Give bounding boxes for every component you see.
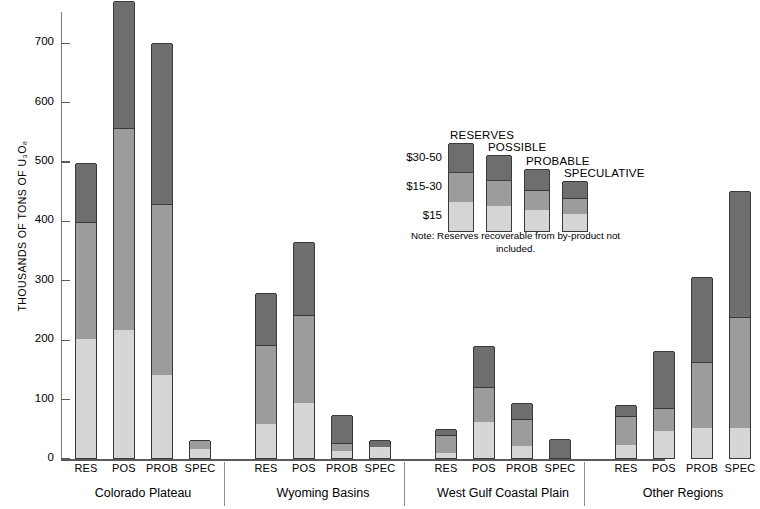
bar-segment-15 <box>616 445 636 458</box>
bar-segment-30to50 <box>474 346 494 386</box>
bar-segment-15 <box>190 449 210 458</box>
bar-segment-15to30 <box>332 443 352 451</box>
bar-segment-15 <box>114 330 134 458</box>
bar-segment-15 <box>152 375 172 458</box>
bar-segment-15to30 <box>474 387 494 423</box>
legend-segment-15to30 <box>525 190 549 211</box>
bar-segment-15to30 <box>512 419 532 446</box>
legend-segment-15 <box>563 214 587 231</box>
legend-segment-30to50 <box>449 143 473 172</box>
legend-bar-speculative <box>562 182 588 232</box>
legend-title-probable: PROBABLE <box>526 155 590 167</box>
bar-wyoming-basins-prob[interactable] <box>331 416 353 459</box>
bar-segment-15to30 <box>692 362 712 429</box>
bar-segment-15to30 <box>616 416 636 445</box>
x-label-spec: SPEC <box>355 462 405 474</box>
bar-segment-15to30 <box>730 317 750 428</box>
bar-segment-15to30 <box>654 408 674 432</box>
bar-segment-15to30 <box>76 222 96 339</box>
legend-segment-15 <box>487 206 511 231</box>
bar-segment-30to50 <box>436 429 456 435</box>
bar-segment-15to30 <box>436 435 456 453</box>
bar-segment-15 <box>256 424 276 458</box>
bar-segment-15 <box>512 446 532 458</box>
legend-segment-30to50 <box>487 155 511 180</box>
bar-other-regions-spec[interactable] <box>729 192 751 459</box>
legend-price-label-15to30: $15-30 <box>390 180 442 192</box>
bar-segment-30to50 <box>692 277 712 362</box>
x-label-spec: SPEC <box>535 462 585 474</box>
bar-west-gulf-coastal-plain-pos[interactable] <box>473 347 495 459</box>
bar-segment-30to50 <box>294 242 314 314</box>
bar-segment-15 <box>76 339 96 458</box>
bar-segment-30to50 <box>730 191 750 318</box>
bar-segment-30to50 <box>256 293 276 345</box>
legend-price-label-15: $15 <box>390 209 442 221</box>
bar-wyoming-basins-pos[interactable] <box>293 243 315 459</box>
bar-segment-15 <box>474 422 494 458</box>
legend-title-possible: POSSIBLE <box>488 141 547 153</box>
x-label-spec: SPEC <box>715 462 760 474</box>
group-name-other-regions: Other Regions <box>573 486 760 500</box>
legend-title-speculative: SPECULATIVE <box>564 167 645 179</box>
bar-segment-15to30 <box>152 204 172 375</box>
legend-segment-15to30 <box>563 198 587 215</box>
legend-segment-15 <box>525 210 549 231</box>
legend-bar-possible <box>486 156 512 232</box>
bar-colorado-plateau-prob[interactable] <box>151 44 173 459</box>
bar-segment-15to30 <box>190 440 210 449</box>
legend-segment-30to50 <box>525 169 549 190</box>
bar-segment-15 <box>692 428 712 458</box>
legend-price-label-30to50: $30-50 <box>390 151 442 163</box>
legend-segment-15to30 <box>449 172 473 201</box>
legend-note: Note: Reserves recoverable from by-produ… <box>408 230 623 255</box>
legend-segment-15 <box>449 202 473 231</box>
bar-wyoming-basins-res[interactable] <box>255 294 277 459</box>
bar-other-regions-prob[interactable] <box>691 278 713 459</box>
bar-segment-15 <box>332 451 352 458</box>
bar-wyoming-basins-spec[interactable] <box>369 441 391 459</box>
legend-segment-30to50 <box>563 181 587 198</box>
legend-bar-reserves <box>448 144 474 232</box>
x-axis-baseline <box>61 459 665 461</box>
bar-west-gulf-coastal-plain-prob[interactable] <box>511 404 533 459</box>
bar-segment-30to50 <box>616 405 636 417</box>
bar-other-regions-pos[interactable] <box>653 352 675 459</box>
bar-segment-15to30 <box>114 128 134 330</box>
bar-segment-15to30 <box>294 315 314 403</box>
x-label-spec: SPEC <box>175 462 225 474</box>
bar-segment-15 <box>654 431 674 458</box>
bar-west-gulf-coastal-plain-res[interactable] <box>435 430 457 459</box>
bar-segment-30to50 <box>550 439 570 458</box>
bar-segment-30to50 <box>332 415 352 443</box>
bar-segment-30to50 <box>76 163 96 222</box>
legend-title-reserves: RESERVES <box>450 129 514 141</box>
bar-segment-15 <box>370 447 390 458</box>
bar-other-regions-res[interactable] <box>615 406 637 459</box>
bar-segment-15 <box>436 453 456 458</box>
legend-bar-probable <box>524 170 550 232</box>
bar-segment-30to50 <box>152 43 172 203</box>
bar-colorado-plateau-pos[interactable] <box>113 2 135 459</box>
legend-segment-15to30 <box>487 180 511 205</box>
bar-segment-30to50 <box>512 403 532 420</box>
bar-segment-15 <box>730 428 750 458</box>
bar-colorado-plateau-res[interactable] <box>75 164 97 459</box>
bar-colorado-plateau-spec[interactable] <box>189 441 211 459</box>
bar-segment-30to50 <box>370 440 390 447</box>
bar-west-gulf-coastal-plain-spec[interactable] <box>549 440 571 459</box>
bar-segment-15to30 <box>256 345 276 423</box>
bar-segment-30to50 <box>654 351 674 407</box>
bar-segment-15 <box>294 403 314 458</box>
bar-segment-30to50 <box>114 1 134 129</box>
